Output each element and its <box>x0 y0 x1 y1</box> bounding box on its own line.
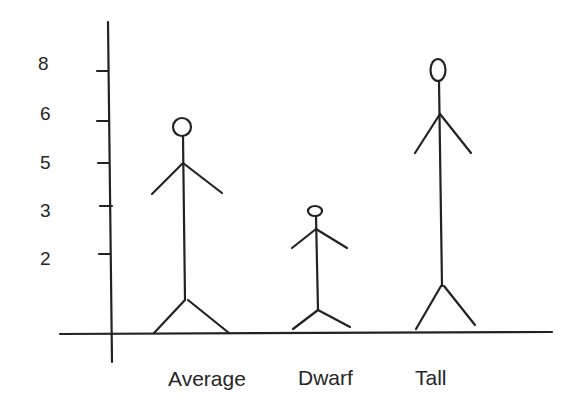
right-leg <box>318 310 350 327</box>
tick-label-8: 8 <box>38 53 49 74</box>
x-axis-baseline <box>60 332 552 334</box>
body <box>439 81 442 286</box>
stick-figure-tall <box>415 59 475 329</box>
tick-label-2: 2 <box>40 248 51 269</box>
left-leg <box>416 286 441 329</box>
head <box>308 206 322 216</box>
tick-label-6: 6 <box>40 103 51 124</box>
stick-figure-average <box>152 118 229 333</box>
right-arm <box>440 114 471 153</box>
tick-label-3: 3 <box>40 200 51 221</box>
right-leg <box>188 300 229 333</box>
right-arm <box>183 163 222 193</box>
right-leg <box>444 286 475 325</box>
tick-label-5: 5 <box>40 152 51 173</box>
y-axis <box>108 22 112 362</box>
left-leg <box>293 310 318 329</box>
left-arm <box>415 114 440 153</box>
head <box>173 118 191 136</box>
label-dwarf: Dwarf <box>298 366 353 389</box>
left-leg <box>154 300 185 333</box>
stick-figure-dwarf <box>292 206 350 329</box>
body <box>183 136 185 300</box>
label-average: Average <box>168 367 246 390</box>
right-arm <box>316 229 347 248</box>
label-tall: Tall <box>415 366 447 389</box>
height-diagram: 8 6 5 3 2 Average Dwarf Tall <box>0 0 580 414</box>
left-arm <box>292 229 316 248</box>
left-arm <box>152 163 183 194</box>
head <box>431 59 446 81</box>
